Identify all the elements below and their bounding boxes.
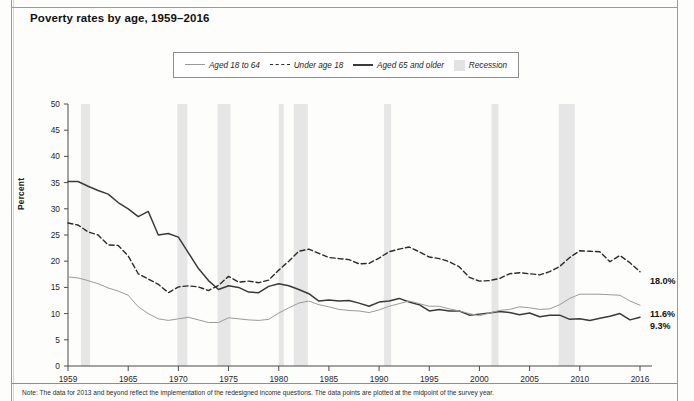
recession-band	[177, 104, 187, 366]
x-axis-tick-label: 2000	[470, 374, 489, 384]
x-axis-tick-label: 1975	[219, 374, 238, 384]
y-axis-tick-label: 35	[51, 178, 61, 188]
x-axis-tick-label: 1959	[59, 374, 78, 384]
series-end-label: 11.6%	[650, 309, 675, 319]
y-axis-tick-label: 50	[51, 99, 61, 109]
x-axis-tick-label: 2016	[631, 374, 650, 384]
x-axis-tick-label: 2010	[570, 374, 589, 384]
x-axis-tick-label: 1990	[370, 374, 389, 384]
recession-band	[279, 104, 284, 366]
recession-band	[81, 104, 90, 366]
y-axis-tick-label: 10	[51, 309, 61, 319]
scanned-page: Poverty rates by age, 1959–2016 Aged 18 …	[0, 0, 694, 401]
y-axis-tick-label: 5	[55, 335, 60, 345]
x-axis-tick-label: 1980	[269, 374, 288, 384]
recession-band	[384, 104, 391, 366]
y-axis-tick-label: 20	[51, 256, 61, 266]
series-line-aged-65-and-older	[68, 182, 640, 321]
chart-plot-area: 0510152025303540455019591965197019751980…	[0, 0, 694, 401]
x-axis-tick-label: 2005	[520, 374, 539, 384]
x-axis-tick-label: 1995	[420, 374, 439, 384]
recession-band	[559, 104, 575, 366]
x-axis-tick-label: 1985	[320, 374, 339, 384]
series-end-label: 18.0%	[650, 276, 676, 286]
x-axis-tick-label: 1970	[169, 374, 188, 384]
series-line-under-age-18	[68, 223, 640, 293]
recession-band	[218, 104, 231, 366]
y-axis-tick-label: 40	[51, 151, 61, 161]
recession-band	[491, 104, 498, 366]
chart-note: Note: The data for 2013 and beyond refle…	[22, 389, 672, 397]
recession-band	[294, 104, 308, 366]
y-axis-tick-label: 30	[51, 204, 61, 214]
y-axis-tick-label: 25	[51, 230, 61, 240]
poverty-rates-line-chart: 0510152025303540455019591965197019751980…	[0, 0, 694, 401]
series-end-label: 9.3%	[650, 321, 671, 331]
y-axis-tick-label: 15	[51, 282, 61, 292]
y-axis-tick-label: 45	[51, 125, 61, 135]
x-axis-tick-label: 1965	[119, 374, 138, 384]
y-axis-tick-label: 0	[55, 361, 60, 371]
